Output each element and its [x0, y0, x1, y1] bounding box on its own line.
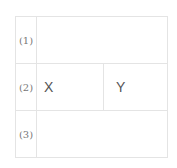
row-1: (1) — [16, 17, 167, 64]
answer-table: (1) (2) X Y (3) — [15, 16, 168, 158]
row-label: (3) — [16, 111, 37, 158]
row-2: (2) X Y — [16, 64, 167, 111]
row-3: (3) — [16, 111, 167, 158]
cell-x: X — [44, 64, 53, 110]
divider — [103, 64, 104, 110]
row-label: (2) — [16, 64, 37, 110]
cell-y: Y — [116, 64, 125, 110]
row-label: (1) — [16, 17, 37, 63]
